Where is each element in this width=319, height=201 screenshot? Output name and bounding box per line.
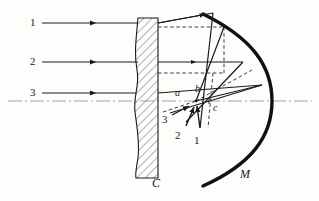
label-corrector-plate: C: [152, 177, 160, 189]
incoming-rays: [42, 23, 138, 93]
convergence-arrows: [172, 106, 200, 128]
label-outgoing-ray-2: 2: [175, 130, 181, 141]
rays-to-mirror: [158, 13, 262, 93]
corrector-plate: [135, 18, 158, 178]
arrow-out-3: [172, 106, 189, 115]
label-outgoing-ray-1: 1: [194, 135, 200, 146]
label-point-c: c: [213, 103, 217, 113]
focal-point: [195, 100, 198, 103]
label-incoming-ray-3: 3: [30, 87, 36, 98]
reflected-ray-1: [200, 13, 213, 128]
label-point-a: a: [175, 88, 180, 98]
arrow-out-2: [186, 107, 194, 126]
optical-diagram-svg: [0, 0, 319, 201]
label-outgoing-ray-3: 3: [162, 114, 168, 125]
label-mirror: M: [240, 168, 250, 180]
figure-canvas: 1 2 3 a b c 3 2 1 C M: [0, 0, 319, 201]
label-incoming-ray-1: 1: [30, 17, 36, 28]
label-point-b: b: [195, 84, 200, 94]
label-incoming-ray-2: 2: [30, 56, 36, 67]
